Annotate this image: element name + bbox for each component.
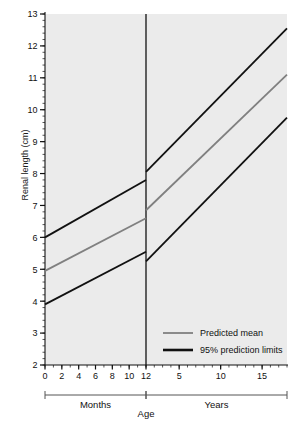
- x-axis-title: Age: [138, 408, 155, 419]
- y-axis-tick-label: 3: [32, 328, 37, 338]
- y-axis-tick-label: 11: [28, 73, 37, 83]
- x-axis-tick-label-months: 4: [76, 371, 81, 381]
- x-axis-tick-label-months: 2: [59, 371, 64, 381]
- y-axis-tick-label: 12: [27, 41, 37, 51]
- x-axis-tick-label-years: 5: [177, 371, 182, 381]
- y-axis-tick-label: 5: [32, 265, 37, 275]
- x-axis: 02468101251015: [42, 365, 288, 381]
- bracket-label-months: Months: [80, 399, 111, 410]
- axis-brackets: MonthsYearsAge: [45, 391, 287, 419]
- legend-label: 95% prediction limits: [200, 345, 283, 355]
- y-axis-tick-label: 6: [32, 233, 37, 243]
- legend-label: Predicted mean: [200, 328, 263, 338]
- renal-length-chart: Renal length (cm) 2345678910111213 02468…: [0, 0, 302, 424]
- y-axis-tick-label: 8: [32, 169, 37, 179]
- x-axis-tick-label-years: 15: [257, 371, 267, 381]
- y-axis-tick-label: 13: [27, 9, 37, 19]
- chart-svg: 2345678910111213 02468101251015 Predicte…: [0, 0, 302, 424]
- x-axis-tick-label-months: 10: [124, 371, 134, 381]
- y-axis-tick-label: 9: [32, 137, 37, 147]
- plot-area-rect: [45, 14, 287, 365]
- x-axis-tick-label-months: 0: [42, 371, 47, 381]
- y-axis: 2345678910111213: [27, 9, 45, 370]
- y-axis-tick-label: 2: [32, 360, 37, 370]
- x-axis-tick-label-months: 6: [93, 371, 98, 381]
- plot-background: [45, 14, 287, 365]
- x-axis-tick-label-months: 8: [110, 371, 115, 381]
- x-axis-tick-label-months: 12: [141, 371, 151, 381]
- y-axis-tick-label: 7: [32, 201, 37, 211]
- y-axis-tick-label: 4: [32, 297, 37, 307]
- x-axis-tick-label-years: 10: [216, 371, 226, 381]
- y-axis-title: Renal length (cm): [20, 85, 30, 245]
- bracket-label-years: Years: [205, 399, 229, 410]
